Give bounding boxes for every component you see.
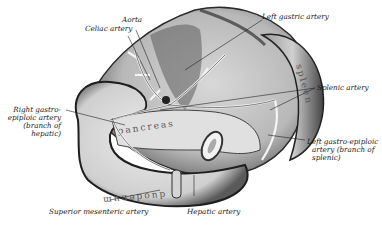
label-right-gastro-line4: hepatic): [31, 130, 61, 138]
label-celiac-artery: Celiac artery: [85, 25, 132, 33]
label-splenic-artery: Splenic artery: [317, 84, 369, 92]
label-left-gastro-line3: splenic): [312, 154, 341, 162]
label-left-gastric-artery: Left gastric artery: [262, 13, 329, 21]
label-aorta: Aorta: [122, 16, 142, 24]
label-superior-mesenteric-artery: Superior mesenteric artery: [49, 208, 148, 216]
label-hepatic-artery: Hepatic artery: [187, 208, 240, 216]
